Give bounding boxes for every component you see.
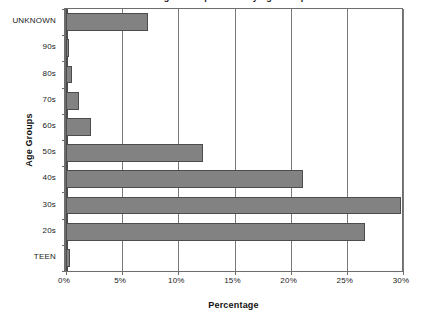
x-tick-label: 25% xyxy=(337,276,354,285)
y-tickmark xyxy=(62,140,66,141)
x-tickmark-30% xyxy=(403,271,404,275)
y-tickmark xyxy=(62,219,66,220)
x-tickmark-5% xyxy=(122,271,123,275)
y-tickmark xyxy=(62,166,66,167)
bar-90s[interactable] xyxy=(66,39,69,57)
x-axis-tick-labels: 0%5%10%15%20%25%30% xyxy=(0,276,432,290)
bar-row xyxy=(66,66,402,84)
bar-unknown[interactable] xyxy=(66,13,148,31)
x-tickmark-0% xyxy=(66,271,67,275)
chart-title-clipped: Percentage of Respondents by Age Group xyxy=(0,0,432,7)
chart-title-text: Percentage of Respondents by Age Group xyxy=(126,0,307,2)
y-tick-label-80s: 80s xyxy=(43,69,57,78)
bar-row xyxy=(66,13,402,31)
y-tick-label-20s: 20s xyxy=(43,226,57,235)
bar-row xyxy=(66,92,402,110)
bars-layer xyxy=(66,9,402,271)
x-tickmark-20% xyxy=(291,271,292,275)
bar-50s[interactable] xyxy=(66,144,203,162)
bar-40s[interactable] xyxy=(66,170,303,188)
bar-20s[interactable] xyxy=(66,223,365,241)
gridline-30% xyxy=(403,9,404,271)
y-tickmark xyxy=(62,192,66,193)
bar-60s[interactable] xyxy=(66,118,91,136)
y-tickmark xyxy=(62,245,66,246)
y-tick-label-60s: 60s xyxy=(43,121,57,130)
x-tick-label: 20% xyxy=(280,276,297,285)
y-tick-label-30s: 30s xyxy=(43,200,57,209)
y-tick-label-unknown: UNKNOWN xyxy=(12,16,56,25)
bar-30s[interactable] xyxy=(66,197,401,215)
y-tickmark xyxy=(62,35,66,36)
x-tickmark-25% xyxy=(347,271,348,275)
x-axis-title: Percentage xyxy=(64,300,403,310)
y-tickmark xyxy=(62,61,66,62)
x-tick-label: 0% xyxy=(58,276,70,285)
y-tickmark xyxy=(62,9,66,10)
plot-area xyxy=(64,8,403,272)
x-tick-label: 15% xyxy=(224,276,241,285)
y-axis-tick-labels: UNKNOWN90s80s70s60s50s40s30s20sTEEN xyxy=(0,8,60,272)
bar-row xyxy=(66,144,402,162)
bar-row xyxy=(66,223,402,241)
bar-chart-figure: Percentage of Respondents by Age Group A… xyxy=(0,0,432,322)
x-tick-label: 5% xyxy=(114,276,126,285)
x-tickmark-15% xyxy=(235,271,236,275)
y-tickmark xyxy=(62,88,66,89)
bar-row xyxy=(66,39,402,57)
y-tick-label-teen: TEEN xyxy=(34,252,56,261)
bar-row xyxy=(66,170,402,188)
x-tick-label: 30% xyxy=(393,276,410,285)
bar-teen[interactable] xyxy=(66,249,70,267)
bar-row xyxy=(66,249,402,267)
y-tick-label-90s: 90s xyxy=(43,42,57,51)
bar-row xyxy=(66,118,402,136)
y-tickmark xyxy=(62,114,66,115)
x-tickmark-10% xyxy=(178,271,179,275)
y-tick-label-50s: 50s xyxy=(43,147,57,156)
bar-row xyxy=(66,197,402,215)
y-tick-label-70s: 70s xyxy=(43,95,57,104)
x-tick-label: 10% xyxy=(168,276,185,285)
bar-80s[interactable] xyxy=(66,66,72,84)
y-tick-label-40s: 40s xyxy=(43,173,57,182)
bar-70s[interactable] xyxy=(66,92,79,110)
